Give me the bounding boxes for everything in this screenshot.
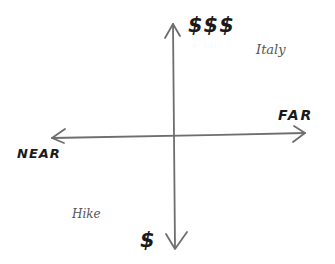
axis-label-far: FAR [278,107,313,123]
quadrant-item-hike: Hike [72,207,101,221]
axis-label-near: NEAR [17,146,61,161]
quadrant-axes [0,0,335,264]
horizontal-axis-line [52,133,305,138]
left-arrow-head [52,129,65,143]
axis-label-cheap: $ [140,228,155,252]
quadrant-item-italy: Italy [256,42,286,57]
down-arrow-head [166,232,187,249]
axis-label-expensive: $$$ [188,13,235,37]
